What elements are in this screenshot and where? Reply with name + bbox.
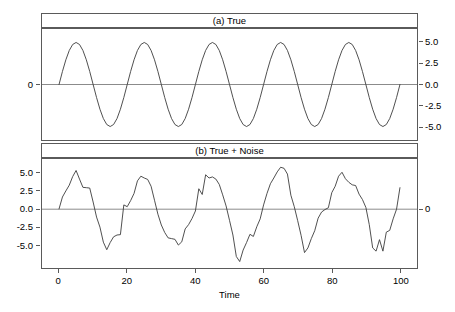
x-tickmark — [332, 269, 333, 273]
y-tick-label: -2.5 — [0, 222, 33, 232]
x-axis: 020406080100 — [41, 269, 418, 289]
y-tickmark — [419, 84, 423, 85]
y-tick-label: 2.5 — [0, 186, 33, 196]
y-tick-label: 0.0 — [0, 204, 33, 214]
x-tick-label: 0 — [38, 276, 78, 286]
x-tick-label: 20 — [107, 276, 147, 286]
y-tick-label: 5.0 — [0, 168, 33, 178]
y-tickmark — [419, 63, 423, 64]
x-tick-label: 40 — [175, 276, 215, 286]
y-tick-label: 0 — [0, 80, 33, 90]
y-tickmark — [36, 172, 40, 173]
panel-true-plus-noise: (b) True + Noise — [41, 143, 418, 269]
y-tickmark — [36, 84, 40, 85]
y-tick-label: -5.0 — [0, 241, 33, 251]
x-tickmark — [400, 269, 401, 273]
y-tickmark — [36, 190, 40, 191]
x-tickmark — [126, 269, 127, 273]
panel-strip-label-b: (b) True + Noise — [42, 146, 417, 156]
y-tick-label: 0 — [425, 204, 430, 214]
y-tick-label: 0.0 — [425, 80, 438, 90]
y-tickmark — [419, 127, 423, 128]
true-series-svg — [42, 29, 417, 140]
x-axis-title-wrap: Time — [41, 290, 418, 304]
panel-strip-a: (a) True — [41, 13, 418, 28]
noise-series-svg — [42, 159, 417, 268]
y-tick-label: 5.0 — [425, 37, 438, 47]
y-tickmark — [419, 105, 423, 106]
panel-strip-b: (b) True + Noise — [41, 143, 418, 158]
y-tickmark — [419, 209, 423, 210]
y-tick-label: -2.5 — [425, 101, 441, 111]
x-axis-title: Time — [41, 290, 418, 300]
x-tick-label: 100 — [381, 276, 421, 286]
x-tickmark — [195, 269, 196, 273]
y-tickmark — [36, 209, 40, 210]
panel-strip-label-a: (a) True — [42, 16, 417, 26]
x-tick-label: 80 — [312, 276, 352, 286]
true-plus-noise-line — [59, 167, 400, 261]
y-tickmark — [36, 227, 40, 228]
x-tickmark — [58, 269, 59, 273]
plot-area-true-plus-noise — [41, 158, 418, 269]
y-tick-label: -5.0 — [425, 122, 441, 132]
y-tick-label: 2.5 — [425, 58, 438, 68]
panel-true: (a) True — [41, 13, 418, 141]
x-tickmark — [263, 269, 264, 273]
trellis-figure: (a) True 0 5.02.50.0-2.5-5.0 (b) True + … — [0, 0, 455, 312]
y-tickmark — [419, 41, 423, 42]
x-tick-label: 60 — [244, 276, 284, 286]
y-tickmark — [36, 245, 40, 246]
plot-area-true — [41, 28, 418, 141]
